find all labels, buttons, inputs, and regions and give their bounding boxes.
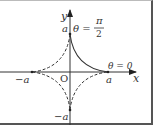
theta-top-numerator: π [95,15,103,26]
theta-top-lhs: θ = [73,23,91,34]
tick-label-pos-x: a [106,74,112,85]
origin-label: O [60,73,68,84]
cusp-right [107,71,110,74]
cusp-left [31,71,34,74]
astroid-arc-q2 [32,34,70,72]
tick-label-neg-y: −a [54,111,68,122]
cusp-top [69,33,72,36]
astroid-arc-q4 [70,72,108,110]
tick-label-pos-y: a [62,23,68,34]
theta-right: θ = 0 [108,61,133,71]
y-axis-label: y [60,10,68,23]
cusp-bottom [69,109,72,112]
x-axis-label: x [133,72,140,85]
tick-label-neg-x: −a [15,74,29,85]
astroid-diagram: y x O a −a a −a θ = π 2 θ = 0 [0,0,158,131]
astroid-arc-q1 [70,34,108,72]
theta-top-denominator: 2 [96,29,102,39]
